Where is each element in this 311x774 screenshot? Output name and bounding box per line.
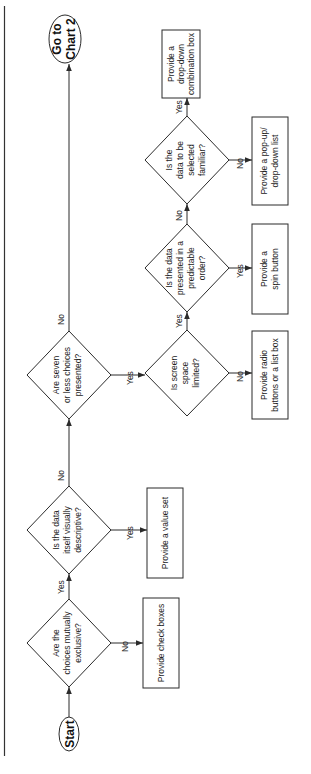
decision-screen-space-limited: Is screen space limited? bbox=[145, 330, 229, 416]
svg-text:presented?: presented? bbox=[73, 353, 83, 396]
edge-label-d3-yes: Yes bbox=[125, 371, 135, 385]
start-label: Start bbox=[63, 720, 77, 747]
edge-label-d2-yes: Yes bbox=[125, 526, 135, 540]
svg-text:Are the: Are the bbox=[51, 629, 61, 657]
decision-visually-descriptive: Is the data itself visually descriptive? bbox=[27, 486, 111, 574]
svg-text:Is the data: Is the data bbox=[51, 510, 61, 550]
svg-text:Is screen: Is screen bbox=[169, 355, 179, 390]
edge-label-d1-no: No bbox=[120, 641, 130, 652]
svg-text:Are seven: Are seven bbox=[51, 356, 61, 395]
decision-predictable-order: Is the data presented in a predictable o… bbox=[145, 224, 229, 312]
svg-text:combination box: combination box bbox=[186, 32, 196, 95]
end-label-line2: Chart 2 bbox=[64, 18, 78, 60]
action-provide-radio-buttons: Provide radio buttons or a list box bbox=[252, 331, 288, 419]
edge-label-d4-yes: Yes bbox=[174, 314, 184, 328]
svg-text:order?: order? bbox=[197, 255, 207, 280]
flowchart-rotated-group: Start Go to Chart 2 Are the choices mutu… bbox=[27, 15, 288, 751]
svg-text:spin button: spin button bbox=[270, 248, 280, 290]
svg-text:Provide radio: Provide radio bbox=[259, 350, 269, 400]
edge-label-d2-no: No bbox=[56, 470, 66, 481]
svg-text:Provide a: Provide a bbox=[166, 46, 176, 82]
svg-text:Provide check boxes: Provide check boxes bbox=[156, 604, 166, 682]
svg-text:Provide a: Provide a bbox=[259, 251, 269, 287]
svg-text:drop-down list: drop-down list bbox=[270, 134, 280, 188]
svg-text:Is the: Is the bbox=[164, 149, 174, 170]
svg-text:selected: selected bbox=[186, 144, 196, 176]
end-label-line1: Go to bbox=[50, 23, 64, 54]
decision-mutually-exclusive: Are the choices mutually exclusive? bbox=[27, 599, 111, 687]
decision-data-familiar: Is the data to be selected familiar? bbox=[145, 116, 229, 204]
svg-text:Is the data: Is the data bbox=[164, 248, 174, 288]
edge-label-d6-no: No bbox=[235, 158, 245, 169]
action-provide-check-boxes: Provide check boxes bbox=[143, 598, 179, 688]
action-provide-combination-box: Provide a drop-down combination box bbox=[162, 30, 200, 98]
edge-label-d5-no: No bbox=[174, 210, 184, 221]
svg-text:predictable: predictable bbox=[186, 247, 196, 289]
flowchart-canvas: Start Go to Chart 2 Are the choices mutu… bbox=[0, 0, 311, 774]
edge-label-d4-no: No bbox=[235, 371, 245, 382]
action-provide-popup-list: Provide a pop-up/ drop-down list bbox=[252, 117, 288, 205]
svg-text:presented in a: presented in a bbox=[175, 241, 185, 295]
edge-label-d1-yes: Yes bbox=[56, 580, 66, 594]
svg-text:Provide a value set: Provide a value set bbox=[160, 496, 170, 569]
svg-text:choices mutually: choices mutually bbox=[62, 611, 72, 675]
svg-text:familiar?: familiar? bbox=[197, 144, 207, 176]
edge-label-d6-yes: Yes bbox=[174, 100, 184, 114]
action-provide-value-set: Provide a value set bbox=[147, 488, 183, 578]
action-provide-spin-button: Provide a spin button bbox=[252, 224, 288, 314]
svg-text:buttons or a list box: buttons or a list box bbox=[270, 337, 280, 411]
go-to-chart-2-terminal: Go to Chart 2 bbox=[49, 15, 81, 63]
decision-seven-or-less: Are seven or less choices presented? bbox=[27, 331, 111, 419]
svg-text:drop-down: drop-down bbox=[176, 44, 186, 84]
edge-label-d5-yes: Yes bbox=[235, 264, 245, 278]
svg-text:itself visually: itself visually bbox=[62, 505, 72, 553]
edge-label-d3-no: No bbox=[56, 314, 66, 325]
start-terminal: Start bbox=[59, 717, 79, 751]
svg-text:space: space bbox=[180, 361, 190, 384]
svg-text:exclusive?: exclusive? bbox=[73, 623, 83, 663]
svg-text:data to be: data to be bbox=[175, 141, 185, 179]
svg-text:Provide a pop-up/: Provide a pop-up/ bbox=[259, 127, 269, 195]
svg-text:or less choices: or less choices bbox=[62, 347, 72, 403]
svg-text:descriptive?: descriptive? bbox=[73, 507, 83, 553]
svg-text:limited?: limited? bbox=[191, 358, 201, 388]
